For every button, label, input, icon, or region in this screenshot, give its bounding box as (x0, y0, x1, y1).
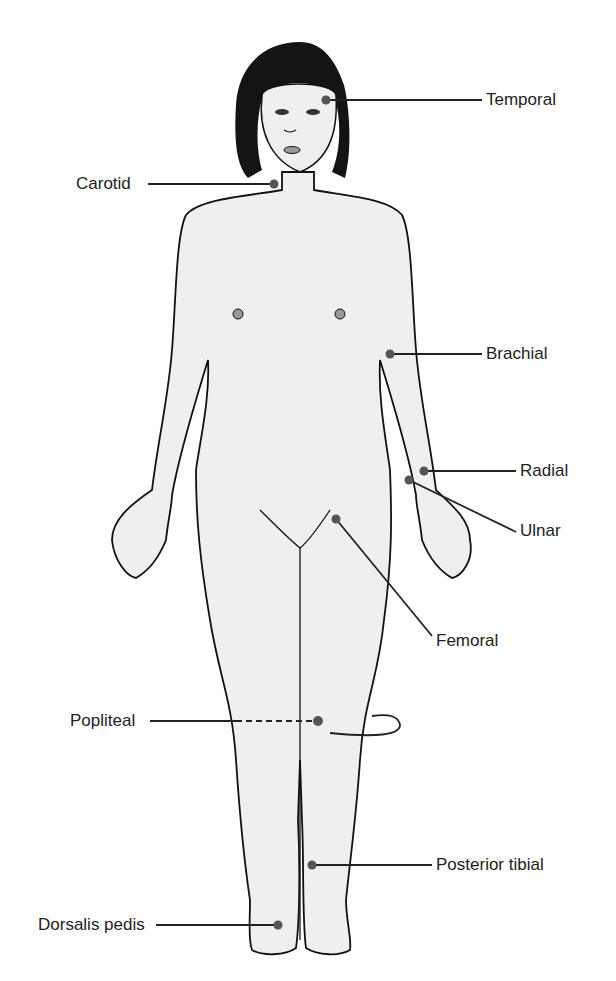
label-brachial: Brachial (486, 344, 547, 364)
label-ulnar: Ulnar (520, 521, 561, 541)
body-figure (0, 0, 616, 981)
label-temporal: Temporal (486, 90, 556, 110)
label-posterior-tibial: Posterior tibial (436, 855, 544, 875)
body-outline (112, 172, 471, 954)
label-popliteal: Popliteal (70, 711, 135, 731)
label-carotid: Carotid (76, 174, 131, 194)
label-dorsalis-pedis: Dorsalis pedis (38, 915, 145, 935)
label-femoral: Femoral (436, 631, 498, 651)
label-radial: Radial (520, 461, 568, 481)
